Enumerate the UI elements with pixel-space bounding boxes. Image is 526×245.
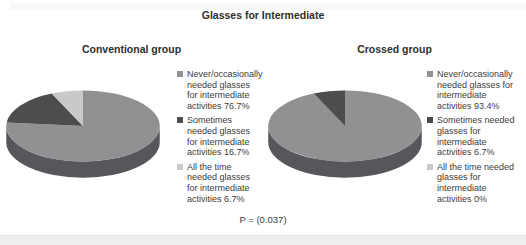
- legend-swatch-sometimes-icon: [427, 117, 433, 123]
- legend-swatch-all-time-icon: [427, 164, 433, 170]
- legend-swatch-never-icon: [427, 71, 433, 77]
- legend-label: All the time needed glasses for intermed…: [187, 162, 250, 204]
- legend-item: All the time needed glasses for intermed…: [427, 162, 521, 204]
- group-title-crossed: Crossed group: [263, 43, 526, 55]
- chart-panels: Conventional group Never/occasionally ne…: [0, 38, 526, 218]
- p-value-label: P = (0.037): [0, 214, 526, 225]
- legend-label: Sometimes needed glasses for intermediat…: [437, 115, 515, 157]
- bottom-scan-band: [0, 235, 526, 245]
- legend-label: Sometimes needed glasses for intermediat…: [187, 115, 250, 157]
- legend-label: Never/occasionally needed glasses for in…: [187, 69, 263, 111]
- legend-item: Never/occasionally needed glasses for in…: [427, 69, 521, 111]
- figure-title: Glasses for Intermediate: [0, 9, 526, 21]
- legend-label: Never/occasionally needed glasses for in…: [437, 69, 513, 111]
- legend-crossed: Never/occasionally needed glasses for in…: [427, 69, 521, 208]
- legend-swatch-all-time-icon: [177, 164, 183, 170]
- legend-swatch-sometimes-icon: [177, 117, 183, 123]
- legend-item: Sometimes needed glasses for intermediat…: [177, 115, 263, 157]
- legend-conventional: Never/occasionally needed glasses for in…: [177, 69, 263, 208]
- panel-crossed-group: Crossed group Never/occasionally needed …: [263, 38, 526, 218]
- pie-chart-conventional-group: [2, 84, 164, 185]
- legend-swatch-never-icon: [177, 71, 183, 77]
- panel-conventional-group: Conventional group Never/occasionally ne…: [0, 38, 263, 218]
- legend-item: Never/occasionally needed glasses for in…: [177, 69, 263, 111]
- figure-glasses-for-intermediate: Glasses for Intermediate Conventional gr…: [0, 0, 526, 245]
- group-title-conventional: Conventional group: [0, 43, 263, 55]
- legend-label: All the time needed glasses for intermed…: [437, 162, 514, 204]
- pie-chart-crossed-group: [264, 84, 426, 185]
- legend-item: Sometimes needed glasses for intermediat…: [427, 115, 521, 157]
- legend-item: All the time needed glasses for intermed…: [177, 162, 263, 204]
